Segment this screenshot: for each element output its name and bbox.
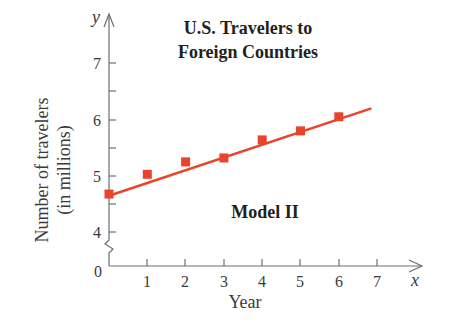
x-tick-label-2: 2 <box>181 273 189 290</box>
plot-area <box>105 108 372 198</box>
x-tick-label-6: 6 <box>335 273 343 290</box>
x-ticks <box>147 259 377 266</box>
x-axis-label: Year <box>228 292 261 312</box>
chart: U.S. Travelers to Foreign Countries Numb… <box>0 0 451 333</box>
y-tick-label-4: 4 <box>93 224 101 241</box>
chart-title-line-1: U.S. Travelers to <box>184 18 312 38</box>
y-tick-label-6: 6 <box>93 112 101 129</box>
x-tick-label-3: 3 <box>220 273 228 290</box>
data-point <box>258 135 267 144</box>
y-axis-variable: y <box>90 7 100 27</box>
origin-label: 0 <box>94 263 102 280</box>
y-tick-label-7: 7 <box>93 55 101 72</box>
x-axis-variable: x <box>410 270 419 290</box>
y-axis-label: Number of travelers (in millions) <box>32 98 75 243</box>
data-point <box>334 112 343 121</box>
y-tick-label-5: 5 <box>93 168 101 185</box>
data-point <box>181 157 190 166</box>
x-axis <box>109 260 422 272</box>
data-point <box>105 190 114 199</box>
data-point <box>143 170 152 179</box>
y-axis <box>104 14 114 266</box>
x-tick-label-7: 7 <box>373 273 381 290</box>
regression-line <box>109 108 371 195</box>
y-axis-label-line-2: (in millions) <box>54 125 75 215</box>
y-ticks <box>109 63 116 232</box>
data-point <box>296 126 305 135</box>
x-tick-label-4: 4 <box>258 273 266 290</box>
y-axis-label-line-1: Number of travelers <box>32 98 52 243</box>
x-tick-label-1: 1 <box>143 273 151 290</box>
x-tick-label-5: 5 <box>296 273 304 290</box>
chart-title-line-2: Foreign Countries <box>178 42 318 62</box>
model-annotation: Model II <box>231 202 299 222</box>
data-point <box>219 153 228 162</box>
